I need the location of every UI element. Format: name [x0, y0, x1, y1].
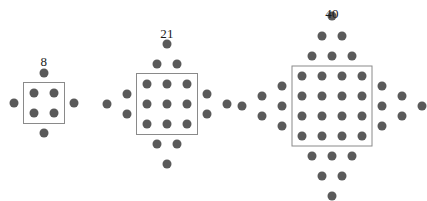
pattern-1-inner-dot — [30, 89, 39, 98]
pattern-3-outer-dot-left — [278, 102, 287, 111]
pattern-2-inner-dot — [183, 100, 192, 109]
pattern-2-outer-dot-bottom — [153, 140, 162, 149]
pattern-2-inner-dot — [163, 100, 172, 109]
pattern-3-inner-dot — [358, 132, 367, 141]
pattern-2-outer-dot-bottom — [173, 140, 182, 149]
pattern-3-outer-dot-right — [398, 92, 407, 101]
pattern-3-outer-dot-bottom — [328, 152, 337, 161]
pattern-3-outer-dot-left — [258, 112, 267, 121]
pattern-2-inner-dot — [183, 120, 192, 129]
pattern-2-outer-dot-left — [103, 100, 112, 109]
pattern-1-outer-dot-right — [70, 99, 79, 108]
pattern-1-inner-dot — [50, 89, 59, 98]
pattern-3-inner-dot — [318, 112, 327, 121]
pattern-3-outer-dot-left — [278, 82, 287, 91]
pattern-3-outer-dot-left — [238, 102, 247, 111]
pattern-3-outer-dot-right — [378, 82, 387, 91]
pattern-3-inner-dot — [318, 132, 327, 141]
pattern-2-outer-dot-top — [153, 60, 162, 69]
pattern-3-outer-dot-bottom — [338, 172, 347, 181]
pattern-1-count-label: 8 — [41, 54, 48, 70]
pattern-2-inner-dot — [143, 120, 152, 129]
pattern-2-outer-dot-right — [223, 100, 232, 109]
pattern-3-inner-dot — [338, 72, 347, 81]
pattern-1-box-outline — [23, 82, 65, 124]
pattern-3-outer-dot-bottom — [328, 192, 337, 201]
pattern-2-outer-dot-right — [203, 90, 212, 99]
pattern-3-outer-dot-top — [328, 52, 337, 61]
pattern-3-inner-dot — [338, 92, 347, 101]
pattern-3-outer-dot-bottom — [348, 152, 357, 161]
pattern-2-outer-dot-bottom — [163, 160, 172, 169]
pattern-1-outer-dot-left — [10, 99, 19, 108]
pattern-2-outer-dot-right — [203, 110, 212, 119]
pattern-1-inner-dot — [50, 109, 59, 118]
pattern-2-count-label: 21 — [160, 26, 174, 42]
pattern-3-outer-dot-top — [338, 32, 347, 41]
pattern-3-count-label: 40 — [325, 6, 339, 22]
pattern-3-outer-dot-right — [418, 102, 427, 111]
pattern-2-inner-dot — [183, 80, 192, 89]
pattern-3-inner-dot — [298, 92, 307, 101]
pattern-3-inner-dot — [338, 132, 347, 141]
pattern-3-inner-dot — [338, 112, 347, 121]
pattern-2-outer-dot-left — [123, 90, 132, 99]
pattern-3-outer-dot-top — [308, 52, 317, 61]
pattern-3-outer-dot-bottom — [318, 172, 327, 181]
pattern-3-outer-dot-right — [378, 102, 387, 111]
pattern-2-inner-dot — [143, 100, 152, 109]
dot-pattern-figure: 82140 — [0, 0, 419, 194]
pattern-3-outer-dot-right — [398, 112, 407, 121]
pattern-3-inner-dot — [358, 72, 367, 81]
pattern-1-inner-dot — [30, 109, 39, 118]
pattern-3-inner-dot — [358, 92, 367, 101]
pattern-3-inner-dot — [318, 72, 327, 81]
pattern-2-outer-dot-left — [123, 110, 132, 119]
pattern-2-inner-dot — [163, 80, 172, 89]
pattern-3-inner-dot — [298, 132, 307, 141]
pattern-3-inner-dot — [318, 92, 327, 101]
pattern-1-outer-dot-bottom — [40, 129, 49, 138]
pattern-3-inner-dot — [358, 112, 367, 121]
pattern-3-outer-dot-top — [348, 52, 357, 61]
pattern-3-outer-dot-top — [318, 32, 327, 41]
pattern-3-outer-dot-bottom — [308, 152, 317, 161]
pattern-3-inner-dot — [298, 72, 307, 81]
pattern-2-outer-dot-top — [173, 60, 182, 69]
pattern-3-outer-dot-left — [258, 92, 267, 101]
pattern-3-inner-dot — [298, 112, 307, 121]
pattern-2-inner-dot — [163, 120, 172, 129]
pattern-2-inner-dot — [143, 80, 152, 89]
pattern-3-outer-dot-left — [278, 122, 287, 131]
pattern-3-outer-dot-right — [378, 122, 387, 131]
